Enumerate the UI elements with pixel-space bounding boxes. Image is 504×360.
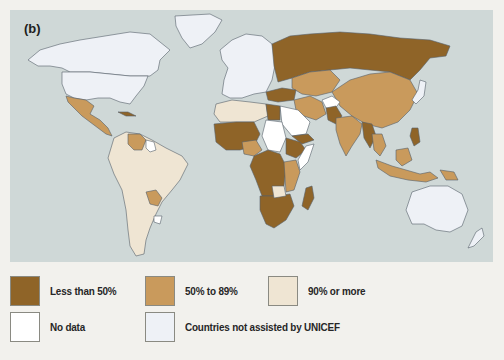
legend-swatch-not-assisted [145, 312, 175, 342]
region-europe [220, 34, 276, 98]
legend-swatch-90-or-more [268, 276, 298, 306]
region-turkey [266, 88, 296, 102]
map-legend: Less than 50% 50% to 89% 90% or more No … [0, 270, 504, 360]
region-north-africa [214, 100, 268, 122]
legend-item-no-data: No data [10, 312, 89, 342]
region-thailand [372, 134, 386, 156]
region-madagascar [302, 186, 314, 210]
region-australia [406, 186, 468, 232]
legend-item-90-or-more: 90% or more [268, 276, 372, 306]
legend-swatch-less-than-50 [10, 276, 40, 306]
region-east-africa [284, 160, 300, 192]
legend-label: 50% to 89% [185, 285, 238, 297]
region-sudan [262, 120, 286, 152]
region-new-zealand [468, 228, 484, 248]
legend-label: No data [50, 321, 85, 333]
region-mexico [66, 96, 112, 136]
legend-label: Countries not assisted by UNICEF [185, 321, 340, 333]
legend-item-50-to-89: 50% to 89% [145, 276, 244, 306]
region-philippines [410, 128, 420, 146]
region-canada [28, 32, 170, 76]
panel-label: (b) [24, 21, 41, 36]
legend-swatch-50-to-89 [145, 276, 175, 306]
region-zambia [272, 186, 286, 198]
legend-label: Less than 50% [50, 285, 116, 297]
region-egypt [266, 104, 280, 120]
region-cuba [118, 112, 136, 116]
map-figure: (b) Less than 50% 50% to 89% 90% or more… [0, 0, 504, 360]
region-png [440, 170, 458, 180]
legend-label: 90% or more [308, 285, 365, 297]
region-southern-africa [260, 194, 294, 228]
region-uruguay [154, 216, 162, 224]
region-russia [272, 32, 450, 82]
region-india [336, 116, 362, 156]
world-map-svg [10, 10, 493, 262]
region-greenland [175, 14, 222, 48]
world-map: (b) [10, 10, 493, 262]
legend-swatch-no-data [10, 312, 40, 342]
region-borneo [396, 148, 412, 166]
legend-item-less-than-50: Less than 50% [10, 276, 124, 306]
legend-item-not-assisted: Countries not assisted by UNICEF [145, 312, 357, 342]
